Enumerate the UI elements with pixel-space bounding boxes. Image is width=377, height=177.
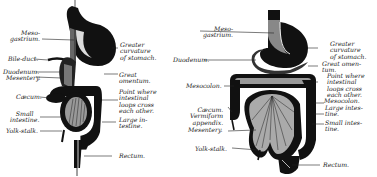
small-intestine-mesentery	[65, 97, 87, 127]
label-cecum: Cæcum.	[16, 94, 42, 100]
label-large-intestine: Large intes- tine.	[325, 105, 363, 118]
figure-early-stage: Meso- gastrium. Bile-duct. Duodenum. Mes…	[0, 0, 190, 177]
label-crossing-point: Point where intestinal loops cross each …	[119, 89, 157, 115]
stomach-shape	[260, 10, 308, 68]
label-mesentery: Mesentery.	[188, 127, 223, 133]
label-bile-duct: Bile-duct.	[8, 56, 38, 62]
label-greater-curvature: Greater curvature of stomach.	[120, 42, 156, 61]
label-mesogastrium: Meso- gastrium.	[10, 30, 40, 43]
label-mesogastrium: Meso- gastrium.	[203, 26, 233, 39]
label-small-intestine: Small intestine.	[10, 111, 39, 124]
label-large-intestine: Large in- testine.	[119, 117, 147, 130]
label-yolk-stalk: Yolk-stalk.	[195, 146, 227, 152]
label-rectum: Rectum.	[119, 153, 145, 159]
label-yolk-stalk: Yolk-stalk.	[6, 128, 38, 134]
label-mesocolon-left: Mesocolon.	[186, 83, 222, 89]
vermiform-appendix	[232, 120, 234, 130]
yolk-stalk-shape	[62, 130, 64, 142]
label-mesentery: Mesentery.	[6, 75, 41, 81]
early-stage-illustration	[0, 0, 190, 177]
transverse-mesocolon	[235, 78, 311, 84]
label-great-omentum: Great omentum.	[119, 72, 151, 85]
label-crossing-point: Point where intestinal loops cross each …	[327, 73, 365, 99]
label-small-intestine: Small intes- tine.	[325, 120, 362, 133]
mesentery-shade	[64, 64, 72, 88]
figure-later-stage: Meso- gastrium. Duodenum. Mesocolon. Cæc…	[190, 0, 377, 177]
label-cecum-appendix: Cæcum. Vermiform appendix.	[190, 107, 223, 126]
label-duodenum: Duodenum.	[173, 57, 209, 63]
label-greater-curvature: Greater curvature of stomach.	[330, 41, 366, 60]
label-rectum: Rectum.	[323, 162, 349, 168]
